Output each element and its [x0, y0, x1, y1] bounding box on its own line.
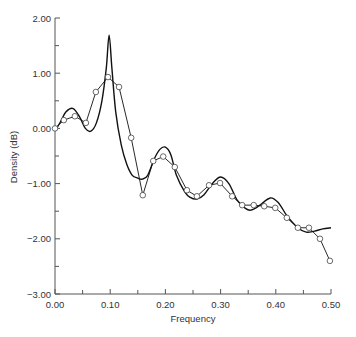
axes — [55, 18, 331, 294]
data-point-marker — [150, 158, 156, 164]
data-point-marker — [172, 164, 178, 170]
data-point-marker — [272, 205, 278, 211]
x-tick-label: 0.20 — [156, 299, 175, 310]
y-tick-label: −3.00 — [27, 289, 51, 300]
data-point-marker — [239, 202, 245, 208]
data-point-marker — [217, 180, 223, 186]
data-point-marker — [93, 89, 99, 95]
data-point-marker — [306, 225, 312, 231]
smooth-density-line — [55, 35, 331, 232]
x-axis-title: Frequency — [171, 313, 216, 324]
x-tick-label: 0.00 — [46, 299, 65, 310]
data-point-marker — [61, 117, 67, 123]
y-tick-label: −2.00 — [27, 233, 51, 244]
data-point-marker — [83, 120, 89, 126]
y-tick-label: 1.00 — [33, 68, 52, 79]
y-tick-label: −1.00 — [27, 178, 51, 189]
data-point-marker — [194, 193, 200, 199]
data-point-marker — [116, 84, 122, 90]
spectral-density-chart: 2.001.000.00−1.00−2.00−3.00 0.000.100.20… — [0, 0, 356, 337]
x-tick-label: 0.10 — [101, 299, 120, 310]
x-tick-label: 0.50 — [322, 299, 341, 310]
y-tick-label: 2.00 — [33, 13, 52, 24]
data-point-marker — [160, 154, 166, 160]
data-point-marker — [105, 74, 111, 80]
raw-density-line — [55, 77, 330, 261]
data-point-marker — [128, 135, 134, 141]
data-point-marker — [284, 215, 290, 221]
x-axis-ticks: 0.000.100.200.300.400.50 — [46, 289, 341, 310]
data-point-marker — [229, 193, 235, 199]
data-point-marker — [251, 202, 257, 208]
data-point-marker — [327, 258, 333, 264]
x-tick-label: 0.40 — [267, 299, 286, 310]
y-tick-label: 0.00 — [33, 123, 52, 134]
data-point-marker — [184, 187, 190, 193]
y-axis-title: Density (dB) — [8, 131, 19, 183]
data-point-marker — [206, 182, 212, 188]
data-point-marker — [52, 126, 58, 132]
data-point-marker — [295, 225, 301, 231]
data-point-marker — [140, 192, 146, 198]
plot-area — [52, 35, 332, 264]
data-point-marker — [72, 113, 78, 119]
x-tick-label: 0.30 — [211, 299, 230, 310]
data-point-marker — [261, 203, 267, 209]
data-point-marker — [317, 236, 323, 242]
